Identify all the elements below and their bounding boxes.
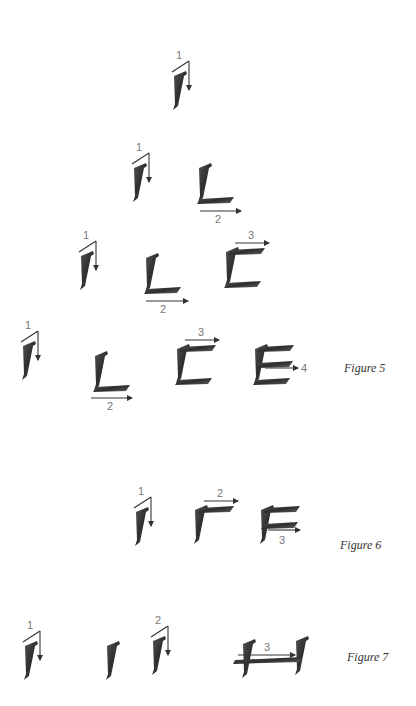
step-number: 2 bbox=[217, 487, 223, 499]
row3-letter-C: 3 bbox=[224, 229, 269, 288]
row6-stroke-plain bbox=[106, 641, 120, 680]
step-number: 1 bbox=[27, 619, 33, 631]
row5-stroke-1: 1 bbox=[134, 485, 151, 546]
step-number: 2 bbox=[155, 614, 161, 626]
step-number: 1 bbox=[136, 141, 142, 153]
row6-stroke-1: 1 bbox=[23, 619, 40, 680]
row1-stroke-1: 1 bbox=[172, 49, 189, 110]
figure-7-caption: Figure 7 bbox=[347, 650, 388, 665]
step-number: 2 bbox=[215, 213, 221, 225]
step-number: 1 bbox=[25, 319, 31, 331]
step-number: 3 bbox=[198, 326, 204, 338]
step-number: 3 bbox=[279, 534, 285, 546]
step-number: 4 bbox=[301, 362, 307, 374]
row6-letter-H: 3 bbox=[233, 636, 309, 678]
row4-letter-L: 2 bbox=[91, 351, 132, 412]
row2-stroke-1: 1 bbox=[132, 141, 149, 202]
row5-letter-F: 3 bbox=[260, 505, 300, 546]
row4-letter-E: 4 bbox=[253, 344, 307, 385]
row4-letter-C: 3 bbox=[175, 326, 219, 385]
step-number: 3 bbox=[264, 641, 270, 653]
step-number: 1 bbox=[138, 485, 144, 497]
row5-letter-F-top: 2 bbox=[194, 487, 238, 544]
figure-6-caption: Figure 6 bbox=[340, 538, 381, 553]
figure-5-caption: Figure 5 bbox=[344, 361, 385, 376]
row3-letter-L: 2 bbox=[144, 253, 188, 315]
step-number: 2 bbox=[107, 400, 113, 412]
step-number: 3 bbox=[248, 229, 254, 241]
row4-stroke-1: 1 bbox=[21, 319, 38, 380]
step-number: 1 bbox=[176, 49, 182, 61]
step-number: 2 bbox=[160, 303, 166, 315]
row6-stroke-2: 2 bbox=[151, 614, 168, 675]
row3-stroke-1: 1 bbox=[79, 229, 96, 290]
row2-letter-L: 2 bbox=[197, 163, 241, 225]
step-number: 1 bbox=[83, 229, 89, 241]
